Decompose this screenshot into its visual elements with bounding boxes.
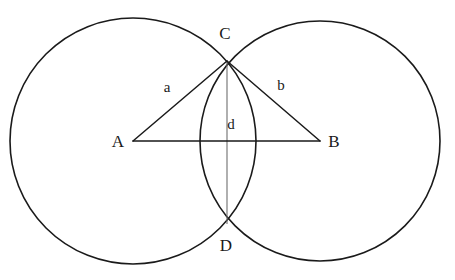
diagram-canvas: A B C D a b d: [0, 0, 455, 280]
segment-ac-line: [133, 61, 227, 141]
point-label-b: B: [328, 132, 339, 151]
geometry-diagram: A B C D a b d: [0, 0, 455, 280]
point-label-a: A: [112, 132, 125, 151]
segment-label-b: b: [277, 77, 285, 93]
segment-label-a: a: [164, 79, 171, 95]
point-label-c: C: [219, 24, 230, 43]
segment-cb-line: [227, 61, 320, 141]
point-label-d: D: [220, 236, 232, 255]
segment-label-d: d: [227, 116, 235, 132]
